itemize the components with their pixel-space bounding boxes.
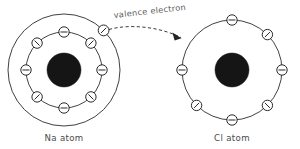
atom-transfer-diagram: Na atom — [0, 0, 300, 149]
na-valence-electron — [98, 25, 109, 36]
electron — [59, 27, 69, 37]
electron — [86, 92, 96, 102]
electron — [227, 15, 237, 25]
electron — [262, 100, 272, 110]
electron — [32, 38, 42, 48]
diagram-root: Na atom — [0, 0, 300, 149]
diagram-background — [0, 0, 300, 149]
electron — [277, 65, 287, 75]
electron — [177, 65, 187, 75]
electron — [32, 92, 42, 102]
cl-atom-caption: Cl atom — [214, 133, 250, 143]
electron — [262, 29, 272, 39]
electron — [227, 115, 237, 125]
electron — [59, 103, 69, 113]
electron — [97, 65, 107, 75]
electron — [191, 100, 201, 110]
electron — [21, 65, 31, 75]
na-nucleus — [47, 53, 81, 87]
na-atom-caption: Na atom — [44, 133, 83, 143]
electron — [86, 38, 96, 48]
cl-nucleus — [215, 53, 249, 87]
